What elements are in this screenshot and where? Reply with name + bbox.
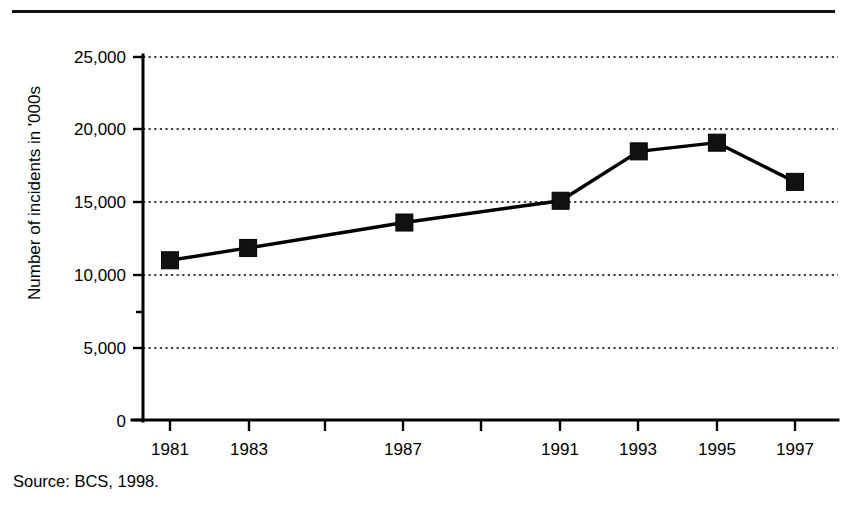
figure-container: Number of incidents in '000s [0, 0, 845, 507]
series-line-incidents [170, 143, 795, 261]
chart-plot-area: Number of incidents in '000s [0, 0, 845, 507]
x-tick-label-1987: 1987 [384, 440, 422, 459]
x-tick-label-1981: 1981 [151, 440, 189, 459]
data-point-1995 [708, 134, 725, 151]
x-tick-marks [170, 420, 795, 431]
data-point-1991 [552, 192, 569, 209]
x-tick-label-1991: 1991 [541, 440, 579, 459]
y-axis-title: Number of incidents in '000s [25, 86, 44, 300]
y-tick-label-0: 0 [117, 412, 126, 431]
data-point-1983 [240, 239, 257, 256]
y-tick-label-25000: 25,000 [74, 48, 126, 67]
line-chart: Number of incidents in '000s [0, 0, 845, 507]
x-tick-label-1983: 1983 [230, 440, 268, 459]
x-tick-labels: 1981 1983 1987 1991 1993 1995 1997 [151, 440, 814, 459]
data-point-1997 [787, 173, 804, 190]
data-point-1987 [396, 214, 413, 231]
y-tick-label-5000: 5,000 [83, 339, 126, 358]
series-markers [162, 134, 804, 269]
x-tick-label-1993: 1993 [619, 440, 657, 459]
y-tick-label-10000: 10,000 [74, 266, 126, 285]
gridlines [143, 57, 838, 348]
x-tick-label-1997: 1997 [776, 440, 814, 459]
y-tick-label-15000: 15,000 [74, 193, 126, 212]
y-tick-labels: 25,000 20,000 15,000 10,000 5,000 0 [74, 48, 126, 431]
y-tick-label-20000: 20,000 [74, 120, 126, 139]
source-note: Source: BCS, 1998. [13, 472, 159, 491]
x-tick-label-1995: 1995 [698, 440, 736, 459]
data-point-1993 [630, 143, 647, 160]
data-point-1981 [162, 252, 179, 269]
